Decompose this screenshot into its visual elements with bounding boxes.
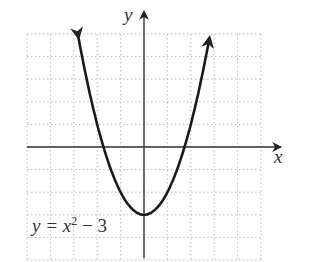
y-axis-label: y <box>124 4 132 26</box>
x-axis-label: x <box>274 146 282 168</box>
equation-lhs: y = x <box>32 215 71 236</box>
equation-rhs: − 3 <box>77 215 107 236</box>
equation-label: y = x2 − 3 <box>32 214 107 237</box>
